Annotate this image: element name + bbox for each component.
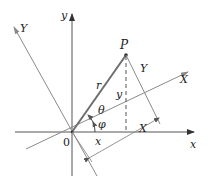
phi-arc	[93, 122, 95, 132]
Y-axis	[14, 27, 97, 176]
theta-arc	[88, 115, 93, 122]
phi-label: φ	[98, 118, 106, 131]
point-p-label: P	[119, 38, 129, 52]
y-coordinate-label: y	[115, 88, 123, 101]
X-axis-label: X	[179, 73, 189, 86]
origin-label: 0	[63, 136, 70, 149]
Y-coordinate-label: Y	[140, 62, 149, 75]
rotation-of-axes-diagram: y Y x X 0 P r θ φ x y Y X	[0, 0, 209, 179]
x-axis-label: x	[190, 138, 197, 151]
y-axis-label: y	[60, 9, 68, 22]
Y-axis-label: Y	[20, 22, 29, 35]
X-dimension-extension	[72, 132, 92, 162]
radius-label: r	[96, 79, 102, 92]
theta-label: θ	[98, 104, 105, 117]
x-coordinate-label: x	[95, 135, 102, 148]
X-coordinate-label: X	[138, 122, 148, 135]
